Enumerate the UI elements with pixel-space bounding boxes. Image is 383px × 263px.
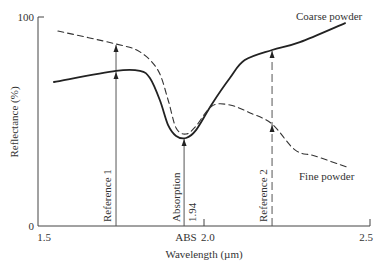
reference-2-arrowhead [270,51,275,58]
reference-1-arrowhead [114,45,119,52]
absorption-label: Absorption [170,172,182,222]
abs-axis-label: ABS [175,231,196,243]
y-axis-label: Reflectance (%) [8,86,21,157]
reflectance-chart: 1.52.02.50100 Wavelength (µm) Reflectanc… [0,0,383,263]
coarse-powder-label: Coarse powder [296,10,363,22]
reference-2-label: Reference 2 [257,169,269,222]
y-tick-label: 100 [18,11,35,23]
fine-powder-curve [58,31,347,167]
x-tick-label: 1.5 [37,231,51,243]
x-tick-label: 2.0 [201,231,215,243]
x-tick-label: 2.5 [359,231,373,243]
reference-1-label: Reference 1 [101,169,113,222]
reference-1-arrowhead [114,72,119,79]
absorption-wavelength-label: 1.94 [186,202,198,222]
y-tick-label: 0 [29,220,35,232]
x-axis-label: Wavelength (µm) [165,248,243,261]
fine-powder-label: Fine powder [299,170,355,182]
absorption-arrowhead [182,139,187,146]
